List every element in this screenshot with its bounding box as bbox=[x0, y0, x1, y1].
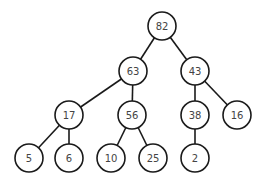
node-label: 82 bbox=[156, 21, 169, 32]
tree-node-25: 25 bbox=[139, 144, 167, 172]
tree-node-10: 10 bbox=[97, 144, 125, 172]
node-label: 17 bbox=[63, 110, 76, 121]
node-label: 2 bbox=[192, 153, 198, 164]
tree-node-38: 38 bbox=[181, 101, 209, 129]
node-label: 56 bbox=[126, 110, 139, 121]
tree-node-17: 17 bbox=[55, 101, 83, 129]
tree-node-16: 16 bbox=[223, 101, 251, 129]
node-label: 38 bbox=[189, 110, 202, 121]
node-label: 5 bbox=[26, 153, 32, 164]
tree-node-6: 6 bbox=[55, 144, 83, 172]
node-label: 6 bbox=[66, 153, 72, 164]
binary-tree-diagram: 826343175638165610252 bbox=[0, 0, 267, 182]
node-label: 16 bbox=[231, 110, 244, 121]
tree-node-63: 63 bbox=[119, 57, 147, 85]
node-label: 10 bbox=[105, 153, 118, 164]
node-label: 43 bbox=[189, 66, 202, 77]
tree-node-2: 2 bbox=[181, 144, 209, 172]
node-label: 63 bbox=[127, 66, 140, 77]
node-label: 25 bbox=[147, 153, 160, 164]
tree-node-56: 56 bbox=[118, 101, 146, 129]
tree-node-5: 5 bbox=[15, 144, 43, 172]
tree-node-43: 43 bbox=[181, 57, 209, 85]
tree-node-82: 82 bbox=[148, 12, 176, 40]
tree-edges bbox=[29, 26, 237, 158]
